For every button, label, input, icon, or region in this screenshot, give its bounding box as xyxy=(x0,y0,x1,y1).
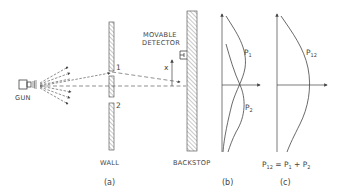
detector-icon xyxy=(180,51,187,59)
p2-label: P2 xyxy=(245,103,253,113)
p12-label: P12 xyxy=(306,48,317,58)
caption-c: (c) xyxy=(280,178,291,187)
p12-curve xyxy=(281,16,310,152)
p1-curve xyxy=(223,16,245,152)
caption-a: (a) xyxy=(104,178,115,187)
bullet-spray xyxy=(40,67,110,104)
hole-2-label: 2 xyxy=(116,101,121,110)
gun-icon xyxy=(19,80,36,89)
wall-label: WALL xyxy=(100,159,119,167)
backstop xyxy=(187,11,197,151)
graph-c xyxy=(277,14,327,152)
gun-label: GUN xyxy=(15,94,31,102)
p2-curve xyxy=(226,44,244,152)
caption-b: (b) xyxy=(222,178,233,187)
double-slit-diagram: GUN 1 2 WALL BACKSTOP MOVABLE DETECTOR x… xyxy=(0,0,337,195)
backstop-label: BACKSTOP xyxy=(173,159,211,167)
hole-1-label: 1 xyxy=(116,63,121,72)
wall xyxy=(109,22,114,150)
graph-b xyxy=(222,14,260,152)
p1-label: P1 xyxy=(244,48,252,58)
x-label: x xyxy=(164,63,169,72)
formula: P12 = P1 + P2 xyxy=(262,160,310,170)
bullet-path xyxy=(112,72,180,82)
detector-label-1: MOVABLE xyxy=(143,31,177,39)
detector-label-2: DETECTOR xyxy=(142,39,180,47)
